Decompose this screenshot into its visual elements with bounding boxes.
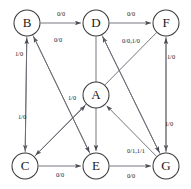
node-label-D: D [91, 15, 100, 30]
node-D[interactable]: D [83, 10, 109, 36]
node-label-A: A [91, 87, 101, 102]
node-label-F: F [162, 15, 169, 30]
node-label-E: E [92, 158, 100, 173]
edge-label-C-B: 1/0 [18, 113, 26, 120]
edge-D-G [102, 35, 159, 152]
diagram-svg: BDFACEG 0/00/00/00/00/00/0,1/01/01/01/01… [0, 0, 191, 189]
edge-label-G-D: 0/0,1/0 [122, 37, 140, 44]
node-label-G: G [161, 158, 170, 173]
edge-label-D-G: 0/1,1/1 [127, 147, 145, 154]
node-C[interactable]: C [12, 153, 38, 179]
edge-label-G-F: 1/0 [165, 120, 173, 127]
node-B[interactable]: B [14, 10, 40, 36]
edge-label-B-D: 0/0 [57, 10, 65, 17]
node-label-C: C [21, 158, 30, 173]
node-A[interactable]: A [83, 82, 109, 108]
node-label-B: B [23, 15, 32, 30]
node-F[interactable]: F [153, 10, 179, 36]
edge-label-F-G: 1/0 [167, 53, 175, 60]
edge-label-C-A: 1/0 [68, 94, 76, 101]
node-E[interactable]: E [83, 153, 109, 179]
edge-label-C-E: 0/0 [56, 171, 64, 178]
state-diagram-canvas: BDFACEG 0/00/00/00/00/00/0,1/01/01/01/01… [0, 0, 191, 189]
edge-C-B [25, 38, 27, 152]
edge-label-D-F: 0/0 [127, 10, 135, 17]
edge-B-E [33, 35, 89, 152]
edge-label-B-C: 1/0 [15, 50, 23, 57]
edge-label-E-B: 0/0 [54, 36, 62, 43]
edge-label-E-G: 0/0 [127, 172, 135, 179]
node-G[interactable]: G [153, 153, 179, 179]
